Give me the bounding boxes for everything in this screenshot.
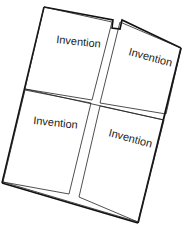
panel-top-left-label: Invention: [56, 33, 102, 50]
folded-document-figure: Invention Invention Invention Invention: [0, 0, 184, 235]
panel-bottom-left-border: [3, 90, 91, 194]
panel-bottom-right-label: Invention: [107, 126, 153, 149]
panel-bottom-left-label: Invention: [33, 114, 79, 131]
panel-top-right-label: Invention: [127, 45, 173, 68]
panel-bottom-right-border: [79, 106, 164, 222]
panel-top-left-border: [25, 7, 112, 100]
